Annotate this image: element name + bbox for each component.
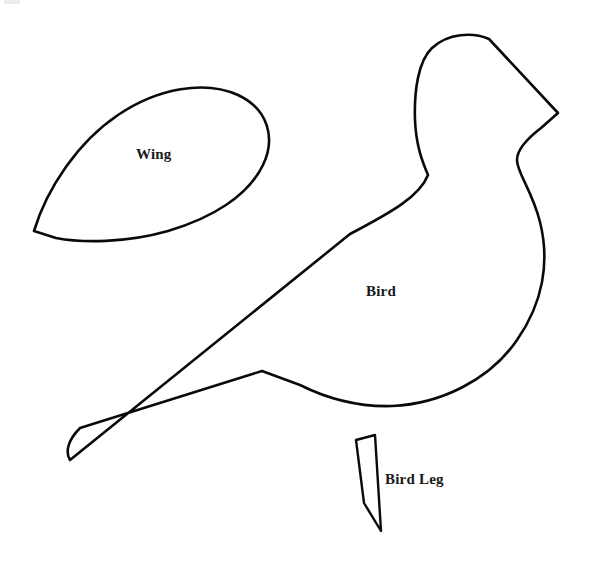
wing-piece-outline[interactable]: [34, 88, 269, 242]
pattern-outlines: [0, 0, 590, 577]
bird-piece-label: Bird: [366, 284, 396, 299]
pattern-sheet: Wing Bird Bird Leg: [0, 0, 590, 577]
bird-piece-outline[interactable]: [68, 35, 558, 460]
bird-leg-piece-label: Bird Leg: [385, 472, 444, 487]
bird-leg-piece-outline[interactable]: [356, 435, 381, 531]
wing-piece-label: Wing: [136, 147, 172, 162]
